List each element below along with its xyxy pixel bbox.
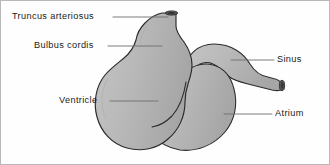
label-truncus-arteriosus: Truncus arteriosus: [12, 12, 94, 21]
label-ventricle: Ventricle: [59, 96, 97, 105]
sinus-lumen: [281, 82, 284, 88]
label-atrium: Atrium: [275, 109, 304, 118]
label-bulbus-cordis: Bulbus cordis: [34, 41, 94, 50]
embryonic-heart-figure: Truncus arteriosus Bulbus cordis Ventric…: [0, 0, 330, 165]
label-sinus: Sinus: [277, 55, 302, 64]
heart-diagram-svg: [0, 0, 330, 165]
truncus-arteriosus-lumen: [168, 12, 175, 14]
